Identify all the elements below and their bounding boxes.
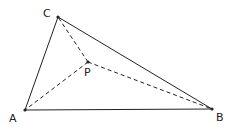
edge-ca [25,17,58,110]
label-c: C [43,7,51,20]
label-a: A [9,112,17,125]
edge-ab [25,109,212,110]
dashed-edge-pb [88,62,212,109]
vertex-b [210,107,213,110]
vertex-c [56,15,59,18]
label-b: B [216,111,224,124]
label-p: P [84,66,91,79]
vertex-p [86,60,89,63]
dashed-edge-pa [25,62,88,110]
vertex-a [23,108,26,111]
edge-bc [58,17,212,109]
dashed-edge-pc [58,17,88,62]
triangle-diagram: C P A B [0,0,229,131]
